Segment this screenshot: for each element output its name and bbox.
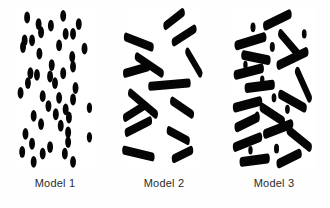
particle-circle: [34, 69, 40, 81]
particle-circle: [40, 148, 46, 160]
particle-circle: [29, 138, 35, 150]
particle-rod: [172, 101, 191, 114]
particle-circle: [69, 51, 75, 63]
particle-circle: [40, 90, 46, 102]
particle-rod: [279, 52, 306, 65]
particle-circle: [45, 100, 51, 112]
panel-model-2: [122, 6, 206, 170]
particle-rod: [298, 72, 310, 98]
particle-circle: [56, 92, 62, 104]
particle-circle: [19, 146, 25, 158]
particle-circle: [76, 18, 82, 30]
particle-circle: [47, 71, 53, 83]
panel-model-1-canvas: [14, 6, 96, 170]
particle-rod: [126, 37, 151, 47]
particle-circle: [52, 77, 58, 89]
particle-circle: [250, 22, 255, 32]
particle-circle: [63, 28, 69, 40]
particle-rod: [237, 118, 257, 128]
particle-rod: [262, 108, 282, 121]
particle-rod: [235, 101, 259, 108]
panel-label-model-2: Model 2: [122, 177, 206, 190]
particle-circle: [302, 29, 307, 38]
particle-circle: [48, 20, 54, 32]
panel-model-1: [14, 6, 96, 170]
particle-circle: [38, 26, 44, 38]
panel-model-3-canvas: [232, 6, 316, 170]
panel-label-model-1: Model 1: [14, 177, 96, 190]
particle-circle: [70, 28, 76, 40]
particle-circle: [70, 61, 76, 73]
panel-model-2-canvas: [122, 6, 206, 170]
particle-circle: [58, 120, 64, 132]
particle-circle: [73, 82, 79, 94]
particle-circle: [47, 141, 53, 153]
particle-circle: [260, 76, 264, 85]
particle-rod: [244, 55, 268, 60]
particle-circle: [87, 132, 92, 142]
particle-circle: [274, 144, 279, 154]
particle-rod: [281, 34, 298, 54]
particle-rod: [174, 29, 194, 42]
particle-rod: [279, 154, 299, 164]
particle-circle: [18, 87, 24, 99]
particle-circle: [62, 148, 68, 160]
particle-circle: [248, 146, 252, 155]
particle-circle: [243, 61, 247, 70]
particle-rod: [281, 95, 305, 108]
particle-circle: [56, 39, 62, 51]
particle-circle: [36, 48, 42, 60]
particle-rod: [247, 85, 272, 88]
particle-circle: [31, 156, 37, 168]
particle-rod: [242, 159, 267, 162]
particle-circle: [49, 59, 55, 71]
particle-rod: [174, 150, 191, 158]
particle-circle: [29, 35, 35, 47]
particle-circle: [25, 77, 31, 89]
particle-circle: [60, 10, 66, 22]
particle-circle: [23, 128, 29, 140]
particle-rod: [125, 150, 153, 157]
particle-circle: [38, 118, 44, 130]
panel-label-model-3: Model 3: [232, 177, 316, 190]
particle-circle: [285, 105, 290, 114]
particle-circle: [272, 93, 277, 102]
particle-circle: [270, 42, 275, 52]
particle-circle: [70, 156, 76, 168]
particle-circle: [66, 112, 72, 124]
particle-circle: [255, 112, 259, 121]
particle-circle: [65, 136, 71, 148]
panel-model-3: [232, 6, 316, 170]
particle-rod: [289, 131, 309, 147]
particle-rod: [169, 131, 187, 141]
particle-rod: [127, 121, 150, 132]
particle-rod: [266, 14, 290, 25]
particle-rod: [188, 52, 201, 73]
particle-circle: [31, 110, 37, 122]
particle-rod: [237, 37, 264, 45]
particle-circle: [53, 108, 59, 120]
particle-rod: [235, 137, 259, 147]
particle-circle: [20, 41, 26, 53]
particle-circle: [87, 102, 92, 112]
particle-rod: [166, 13, 183, 26]
particle-circle: [60, 67, 66, 79]
particle-circle: [82, 43, 88, 55]
particle-rod: [125, 106, 143, 117]
particle-rod: [125, 67, 148, 74]
figure-container: Model 1 Model 2 Model 3: [0, 0, 330, 208]
particle-rod: [236, 68, 261, 75]
particle-circle: [24, 12, 30, 24]
particle-rod: [151, 83, 189, 86]
particle-circle: [70, 94, 76, 106]
